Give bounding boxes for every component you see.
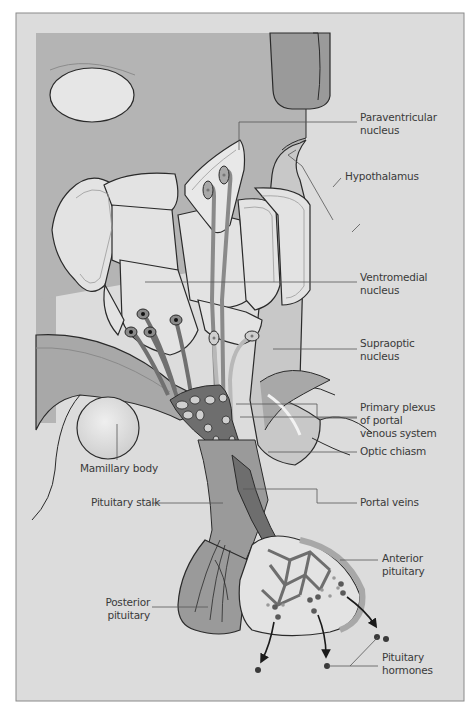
- label-mamillary-body: Mamillary body: [80, 462, 158, 475]
- label-anterior-pituitary: Anterior pituitary: [382, 552, 425, 578]
- label-pituitary-hormones: Pituitary hormones: [382, 651, 433, 677]
- label-pituitary-stalk: Pituitary stalk: [91, 496, 160, 509]
- mamillary-body: [77, 397, 139, 459]
- label-primary-plexus: Primary plexus of portal venous system: [360, 401, 437, 440]
- label-supraoptic-nucleus: Supraoptic nucleus: [360, 337, 415, 363]
- label-hypothalamus: Hypothalamus: [345, 170, 419, 183]
- corpus-ellipse: [50, 68, 134, 122]
- anterior-commissure: [270, 33, 330, 109]
- label-ventromedial-nucleus: Ventromedial nucleus: [360, 271, 427, 297]
- label-paraventricular-nucleus: Paraventricular nucleus: [360, 111, 437, 137]
- label-portal-veins: Portal veins: [360, 496, 419, 509]
- label-posterior-pituitary: Posterior pituitary: [92, 596, 150, 622]
- label-optic-chiasm: Optic chiasm: [360, 445, 426, 458]
